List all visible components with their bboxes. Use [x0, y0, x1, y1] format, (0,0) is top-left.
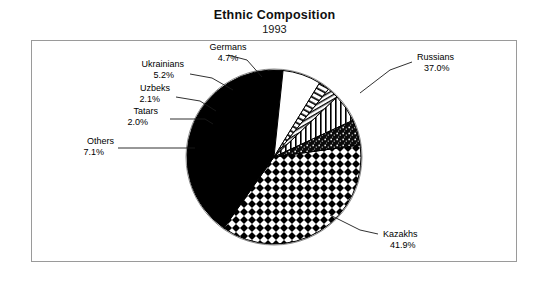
slice-label-kazakhs-name: Kazakhs	[383, 229, 473, 240]
slice-label-others: Others 7.1%	[30, 136, 114, 157]
slice-label-russians-name: Russians	[417, 52, 507, 63]
slice-label-ukrainians-pct: 5.2%	[84, 70, 184, 81]
slice-label-kazakhs-pct: 41.9%	[383, 240, 473, 251]
slice-label-germans: Germans 4.7%	[178, 42, 278, 63]
slice-label-uzbeks: Uzbeks 2.1%	[74, 83, 170, 104]
slice-label-others-pct: 7.1%	[30, 147, 114, 158]
slice-label-ukrainians: Ukrainians 5.2%	[84, 59, 184, 80]
slice-label-others-name: Others	[30, 136, 114, 147]
slice-label-tatars-name: Tatars	[66, 106, 158, 117]
slice-label-germans-name: Germans	[178, 42, 278, 53]
slice-label-uzbeks-name: Uzbeks	[74, 83, 170, 94]
slice-label-kazakhs: Kazakhs 41.9%	[383, 229, 473, 250]
slice-label-russians: Russians 37.0%	[417, 52, 507, 73]
pie-chart-figure: Ethnic Composition 1993	[0, 0, 549, 281]
slice-label-tatars: Tatars 2.0%	[66, 106, 158, 127]
slice-label-germans-pct: 4.7%	[178, 53, 278, 64]
leader-line-russians	[360, 62, 412, 93]
slice-label-uzbeks-pct: 2.1%	[74, 94, 170, 105]
slice-label-russians-pct: 37.0%	[417, 63, 507, 74]
slice-label-ukrainians-name: Ukrainians	[84, 59, 184, 70]
slice-label-tatars-pct: 2.0%	[66, 117, 158, 128]
